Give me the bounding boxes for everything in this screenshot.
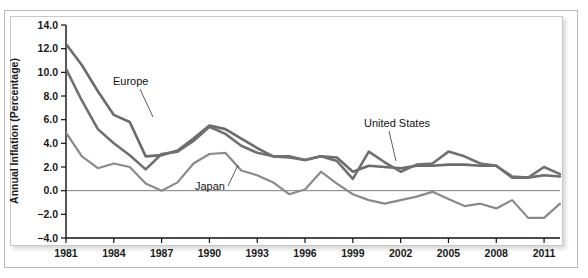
y-tick-label: 2.0 bbox=[43, 161, 58, 173]
y-tick-label: 4.0 bbox=[43, 137, 58, 149]
y-tick-label: 12.0 bbox=[38, 42, 59, 54]
x-tick-label: 2011 bbox=[533, 247, 556, 259]
series-annotation-united-states: United States bbox=[364, 117, 431, 129]
leader-line-europe bbox=[140, 89, 153, 117]
y-tick-label: 10.0 bbox=[38, 66, 59, 78]
x-tick-label: 1990 bbox=[198, 247, 222, 259]
y-axis-title: Annual Inflation (Percentage) bbox=[8, 58, 20, 204]
y-tick-label: 0.0 bbox=[43, 184, 58, 196]
x-tick-label: 1993 bbox=[246, 247, 270, 259]
y-tick-label: 14.0 bbox=[38, 19, 59, 31]
y-tick-label: 8.0 bbox=[43, 90, 58, 102]
x-tick-label: 1981 bbox=[54, 247, 78, 259]
inflation-line-chart: −4.0−2.00.02.04.06.08.010.012.014.0 Annu… bbox=[0, 0, 588, 278]
series-annotation-japan: Japan bbox=[195, 180, 225, 192]
series-group bbox=[66, 44, 560, 218]
y-axis: −4.0−2.00.02.04.06.08.010.012.014.0 Annu… bbox=[8, 19, 66, 244]
y-tick-label: −4.0 bbox=[37, 232, 58, 244]
annotation-group: EuropeJapanUnited States bbox=[113, 75, 431, 192]
leader-line-japan bbox=[228, 165, 238, 186]
x-axis: 1981198419871990199319961999200220052008… bbox=[54, 238, 560, 259]
series-annotation-europe: Europe bbox=[113, 75, 148, 87]
x-tick-label: 1999 bbox=[341, 247, 365, 259]
x-tick-label: 2002 bbox=[389, 247, 413, 259]
x-tick-label: 1987 bbox=[150, 247, 174, 259]
leader-line-united-states bbox=[389, 131, 396, 161]
x-tick-label: 1996 bbox=[293, 247, 317, 259]
figure-root: −4.0−2.00.02.04.06.08.010.012.014.0 Annu… bbox=[0, 0, 588, 278]
x-tick-label: 2005 bbox=[437, 247, 461, 259]
y-tick-label: 6.0 bbox=[43, 113, 58, 125]
x-tick-label: 1984 bbox=[102, 247, 126, 259]
y-tick-label: −2.0 bbox=[37, 208, 58, 220]
x-tick-label: 2008 bbox=[485, 247, 509, 259]
